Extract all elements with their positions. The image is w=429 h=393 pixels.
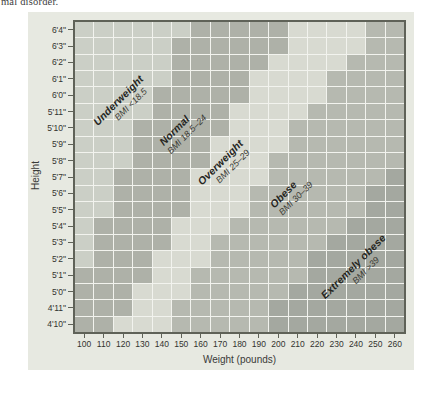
bmi-cell <box>94 251 112 266</box>
bmi-cell <box>94 38 112 53</box>
bmi-cell <box>114 251 132 266</box>
bmi-cell <box>289 268 307 283</box>
bmi-cell <box>75 251 93 266</box>
bmi-cell <box>269 120 287 135</box>
bmi-cell <box>289 218 307 233</box>
bmi-cell <box>327 38 345 53</box>
bmi-cell <box>250 71 268 86</box>
bmi-cell <box>114 202 132 217</box>
bmi-cell <box>327 120 345 135</box>
bmi-cell <box>327 153 345 168</box>
bmi-cell <box>327 87 345 102</box>
bmi-cell <box>230 55 248 70</box>
bmi-cell <box>94 137 112 152</box>
bmi-cell <box>114 169 132 184</box>
y-tick-mark <box>68 275 73 276</box>
bmi-cell <box>386 153 404 168</box>
bmi-cell <box>230 38 248 53</box>
bmi-cell <box>191 87 209 102</box>
bmi-cell <box>347 137 365 152</box>
bmi-cell <box>250 120 268 135</box>
bmi-cell <box>75 153 93 168</box>
y-tick-label: 5'0" <box>30 287 66 297</box>
x-tick-label: 260 <box>383 339 407 349</box>
bmi-cell <box>347 38 365 53</box>
bmi-cell <box>172 55 190 70</box>
bmi-cell <box>366 137 384 152</box>
bmi-cell <box>230 104 248 119</box>
bmi-cell <box>75 186 93 201</box>
bmi-cell <box>211 284 229 299</box>
bmi-cell <box>347 55 365 70</box>
bmi-cell <box>327 317 345 332</box>
bmi-cell <box>327 235 345 250</box>
bmi-cell <box>327 186 345 201</box>
bmi-cell <box>250 186 268 201</box>
x-tick-mark <box>394 334 395 338</box>
bmi-cell <box>75 268 93 283</box>
bmi-cell <box>230 268 248 283</box>
bmi-cell <box>366 55 384 70</box>
bmi-cell <box>75 137 93 152</box>
y-tick-mark <box>68 144 73 145</box>
x-tick-mark <box>181 334 182 338</box>
bmi-cell <box>250 169 268 184</box>
bmi-cell <box>94 268 112 283</box>
bmi-cell <box>366 120 384 135</box>
bmi-cell <box>191 251 209 266</box>
y-tick-mark <box>68 177 73 178</box>
bmi-cell <box>133 284 151 299</box>
bmi-cell <box>289 251 307 266</box>
bmi-cell <box>230 186 248 201</box>
bmi-cell <box>386 120 404 135</box>
bmi-cell <box>172 218 190 233</box>
bmi-cell <box>153 38 171 53</box>
bmi-cell <box>211 71 229 86</box>
y-tick-label: 5'2" <box>30 254 66 264</box>
bmi-cell <box>308 120 326 135</box>
bmi-cell <box>133 120 151 135</box>
bmi-cell <box>94 71 112 86</box>
bmi-cell <box>269 104 287 119</box>
bmi-cell <box>347 71 365 86</box>
bmi-cell <box>366 169 384 184</box>
y-tick-mark <box>68 78 73 79</box>
bmi-cell <box>386 55 404 70</box>
bmi-cell <box>133 38 151 53</box>
page-text-fragment: mal disorder. <box>1 0 58 7</box>
bmi-cell <box>386 71 404 86</box>
bmi-cell <box>94 317 112 332</box>
bmi-cell <box>211 22 229 37</box>
bmi-cell <box>172 38 190 53</box>
bmi-cell <box>347 87 365 102</box>
bmi-cell <box>250 300 268 315</box>
y-tick-mark <box>68 258 73 259</box>
bmi-cell <box>289 317 307 332</box>
y-tick-mark <box>68 127 73 128</box>
bmi-cell <box>347 202 365 217</box>
x-tick-mark <box>103 334 104 338</box>
y-tick-mark <box>68 324 73 325</box>
bmi-cell <box>94 284 112 299</box>
bmi-cell <box>191 235 209 250</box>
bmi-cell <box>133 218 151 233</box>
bmi-cell <box>75 169 93 184</box>
bmi-cell <box>386 137 404 152</box>
bmi-cell <box>191 55 209 70</box>
bmi-cell <box>269 235 287 250</box>
bmi-cell <box>133 55 151 70</box>
bmi-cell <box>386 186 404 201</box>
bmi-cell <box>366 186 384 201</box>
bmi-cell <box>191 22 209 37</box>
bmi-cell <box>269 87 287 102</box>
bmi-cell <box>211 268 229 283</box>
bmi-cell <box>75 104 93 119</box>
bmi-cell <box>250 235 268 250</box>
bmi-cell <box>153 235 171 250</box>
bmi-cell <box>250 251 268 266</box>
bmi-cell <box>250 87 268 102</box>
bmi-cell <box>289 153 307 168</box>
bmi-cell <box>366 202 384 217</box>
bmi-cell <box>230 71 248 86</box>
bmi-cell <box>230 22 248 37</box>
